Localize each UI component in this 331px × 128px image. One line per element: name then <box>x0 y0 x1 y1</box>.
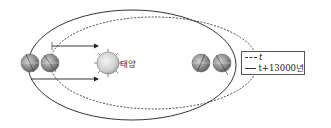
earth-icon <box>192 54 210 72</box>
legend: t t+13000년 <box>241 51 305 75</box>
legend-item-t-plus-13000: t+13000년 <box>245 63 304 74</box>
earth-icon <box>41 54 59 72</box>
legend-label: t+13000년 <box>258 63 304 74</box>
legend-label: t <box>259 52 262 63</box>
sun-label: 태양 <box>120 57 136 69</box>
legend-item-t: t <box>245 52 304 63</box>
earth-icon <box>21 54 39 72</box>
sun-icon <box>94 49 122 77</box>
solid-line-swatch <box>245 68 256 69</box>
earth-icon <box>213 54 231 75</box>
dashed-line-swatch <box>245 57 257 58</box>
